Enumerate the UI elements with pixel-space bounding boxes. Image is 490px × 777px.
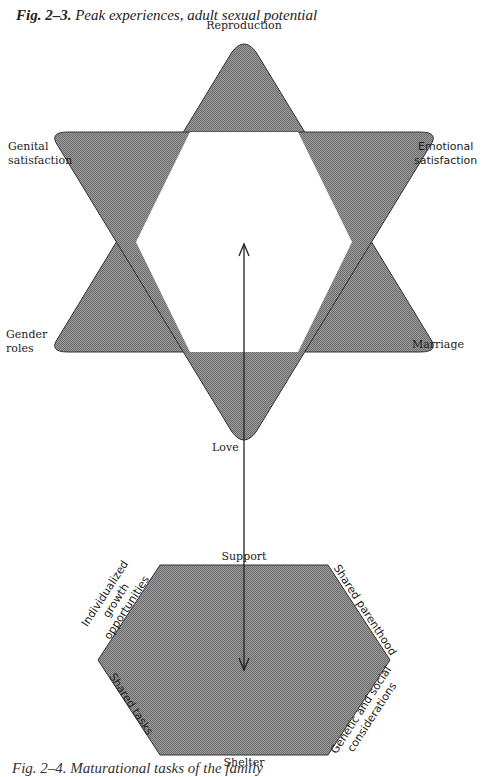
label-support: Support bbox=[221, 550, 267, 563]
label-gender-line2: roles bbox=[6, 342, 34, 355]
label-marriage: Marriage bbox=[412, 338, 464, 351]
label-reproduction: Reproduction bbox=[206, 19, 282, 32]
label-genital-line2: satisfaction bbox=[8, 154, 72, 167]
label-emotional-line1: Emotional bbox=[418, 140, 473, 153]
label-emotional-line2: satisfaction bbox=[414, 154, 477, 167]
label-genital-line1: Genital bbox=[8, 140, 49, 153]
label-love: Love bbox=[212, 441, 239, 454]
next-figure-caption: Fig. 2–4. Maturational tasks of the fami… bbox=[12, 760, 263, 777]
label-gender-line1: Gender bbox=[6, 328, 48, 341]
